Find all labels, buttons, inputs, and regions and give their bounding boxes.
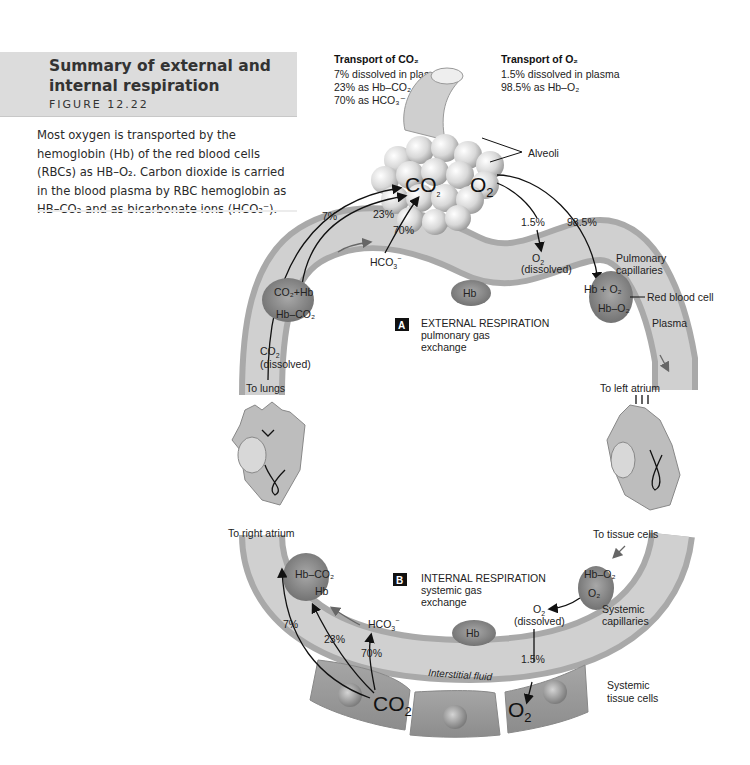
rbc-external-right [589, 271, 633, 323]
to-tissue-cells-label: To tissue cells [593, 528, 658, 540]
pct-70-external: 70% [393, 224, 414, 236]
o2-transport-legend: Transport of O₂ 1.5% dissolved in plasma… [501, 53, 620, 93]
systemic-tissue-label-2: tissue cells [607, 692, 658, 704]
pct-98-5-external: 98.5% [567, 216, 597, 228]
respiration-diagram: Transport of CO₂ 7% dissolved in plasma … [0, 0, 750, 765]
o2-legend-line: 1.5% dissolved in plasma [501, 68, 620, 80]
internal-respiration-sub: systemic gas [421, 584, 482, 596]
rbc-internal-left-bottom: Hb [315, 585, 329, 597]
co2-legend-title: Transport of CO₂ [334, 53, 419, 65]
rbc-right-bottom: Hb–O₂ [598, 302, 630, 314]
hb-internal-label: Hb [466, 627, 480, 639]
svg-text:B: B [396, 575, 403, 586]
external-respiration-sub-2: exchange [421, 341, 467, 353]
pulmonary-capillaries-label: Pulmonary [616, 252, 667, 264]
pct-23-internal: 23% [324, 633, 345, 645]
o2-legend-title: Transport of O₂ [501, 53, 578, 65]
co2-legend-line: 23% as Hb–CO₂ [334, 81, 411, 93]
internal-respiration-title: INTERNAL RESPIRATION [421, 572, 546, 584]
systemic-capillaries-label-2: capillaries [602, 615, 649, 627]
to-right-atrium-label: To right atrium [228, 527, 295, 539]
o2-legend-line: 98.5% as Hb–O₂ [501, 81, 579, 93]
rbc-internal-right-bottom: O₂ [588, 587, 600, 599]
external-respiration-title: EXTERNAL RESPIRATION [421, 317, 549, 329]
to-lungs-label: To lungs [246, 382, 285, 394]
internal-respiration-sub-2: exchange [421, 596, 467, 608]
hb-external-label: Hb [463, 287, 477, 299]
co2-dissolved-external-2: (dissolved) [260, 358, 311, 370]
heart-right-icon [607, 395, 680, 510]
external-respiration-sub: pulmonary gas [421, 329, 490, 341]
rbc-left-bottom: Hb–CO₂ [276, 308, 315, 320]
to-left-atrium-label: To left atrium [600, 382, 660, 394]
o2-dissolved-external-2: (dissolved) [521, 263, 572, 275]
svg-text:A: A [398, 320, 405, 331]
co2-legend-line: 70% as HCO₃⁻ [334, 94, 406, 106]
pct-1-5-external: 1.5% [521, 216, 545, 228]
rbc-internal-right-top: Hb–O₂ [584, 568, 616, 580]
red-blood-cell-label: Red blood cell [647, 291, 714, 303]
alveoli-label: Alveoli [528, 147, 559, 159]
o2-dissolved-internal-2: (dissolved) [514, 615, 565, 627]
heart-left-icon [232, 402, 305, 505]
rbc-left-top: CO₂+Hb [274, 286, 314, 298]
pct-7-external: 7% [322, 210, 337, 222]
systemic-capillaries-label: Systemic [602, 603, 645, 615]
systemic-tissue-label: Systemic [607, 679, 650, 691]
hco3-external: HCO3− [370, 255, 401, 270]
hco3-internal: HCO3− [368, 617, 399, 632]
rbc-internal-left-top: Hb–CO₂ [295, 568, 334, 580]
pct-70-internal: 70% [361, 647, 382, 659]
alveolar-co2: CO2 [405, 173, 441, 198]
pct-7-internal: 7% [283, 618, 298, 630]
rbc-right-top: Hb + O₂ [584, 283, 622, 295]
pct-1-5-internal: 1.5% [521, 653, 545, 665]
pulmonary-capillaries-label-2: capillaries [616, 264, 663, 276]
flow-arrow [614, 546, 625, 557]
pct-23-external: 23% [373, 208, 394, 220]
plasma-label: Plasma [652, 317, 687, 329]
